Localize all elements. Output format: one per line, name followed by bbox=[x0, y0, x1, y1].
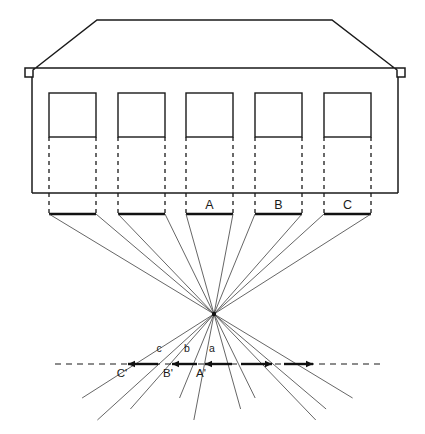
image-point-label: C' bbox=[117, 367, 128, 379]
background bbox=[0, 0, 425, 434]
vanishing-point-marker bbox=[212, 312, 216, 316]
image-point-label: A' bbox=[196, 367, 206, 379]
perspective-diagram: ABC cba C'B'A' bbox=[0, 0, 425, 434]
image-point-label: B' bbox=[163, 367, 173, 379]
interval-label: c bbox=[156, 342, 161, 354]
object-segment-label: B bbox=[274, 198, 282, 212]
object-segment-label: C bbox=[343, 198, 352, 212]
interval-label: b bbox=[184, 342, 190, 354]
diagram-canvas: ABC cba C'B'A' bbox=[0, 0, 425, 434]
interval-label: a bbox=[209, 342, 215, 354]
object-segment-label: A bbox=[205, 198, 214, 212]
